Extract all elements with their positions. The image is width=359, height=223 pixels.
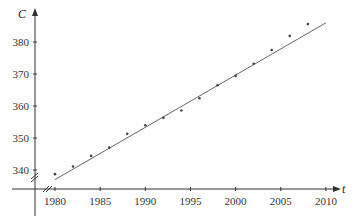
- data-point: [252, 62, 255, 65]
- y-tick-label: 350: [13, 132, 30, 144]
- ticks: 3403503603703801980198519901995200020052…: [13, 36, 338, 207]
- x-tick-label: 2005: [270, 195, 293, 207]
- data-point: [180, 109, 183, 112]
- data-point: [54, 173, 57, 176]
- data-point: [307, 23, 310, 26]
- y-axis-label: C: [18, 7, 27, 21]
- y-tick-label: 370: [13, 68, 30, 80]
- x-tick-label: 1990: [134, 195, 157, 207]
- data-point: [288, 35, 291, 38]
- data-point: [162, 117, 165, 120]
- x-tick-label: 1985: [89, 195, 112, 207]
- data-point: [234, 75, 237, 78]
- x-axis-arrow-icon: [333, 186, 341, 192]
- data-point: [72, 165, 75, 168]
- data-point: [126, 133, 129, 136]
- data-point: [108, 146, 111, 149]
- y-axis-arrow-icon: [32, 8, 38, 16]
- x-axis-label: t: [342, 182, 346, 196]
- x-tick-label: 2010: [315, 195, 338, 207]
- fit-line: [55, 23, 326, 180]
- y-tick-label: 360: [13, 100, 30, 112]
- chart: 3403503603703801980198519901995200020052…: [0, 0, 359, 223]
- axes: [12, 8, 341, 216]
- data-point: [144, 124, 147, 127]
- data-point: [198, 97, 201, 100]
- x-tick-label: 2000: [225, 195, 248, 207]
- x-tick-label: 1980: [44, 195, 67, 207]
- data-point: [90, 155, 93, 158]
- x-tick-label: 1995: [179, 195, 202, 207]
- y-tick-label: 380: [13, 36, 30, 48]
- data-point: [270, 49, 273, 52]
- y-tick-label: 340: [13, 164, 30, 176]
- data-points: [54, 23, 309, 176]
- data-point: [216, 84, 219, 87]
- regression-line: [55, 23, 326, 180]
